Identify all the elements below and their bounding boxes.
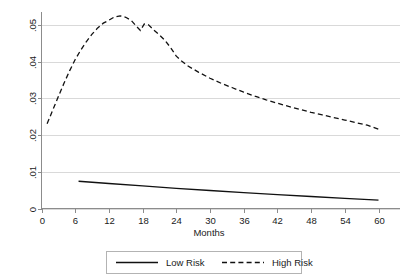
y-tick-label-1: .01 xyxy=(27,166,38,179)
y-tick-label-2: .02 xyxy=(27,129,38,142)
x-tick-label-3: 18 xyxy=(138,215,149,226)
y-tick-label-3: .03 xyxy=(27,92,38,105)
x-tick-label-4: 24 xyxy=(171,215,182,226)
y-tick-label-4: .04 xyxy=(27,56,38,69)
x-tick-label-10: 60 xyxy=(374,215,385,226)
x-tick-label-9: 54 xyxy=(340,215,351,226)
y-tick-label-0: 0 xyxy=(27,207,38,212)
legend-label-high-risk: High Risk xyxy=(272,257,313,268)
y-tick-label-5: .05 xyxy=(27,19,38,32)
legend-label-low-risk: Low Risk xyxy=(166,257,205,268)
x-tick-label-0: 0 xyxy=(40,215,45,226)
chart-figure: 0.01.02.03.04.05 06121824303642485460 Mo… xyxy=(0,0,407,280)
x-tick-label-5: 30 xyxy=(205,215,216,226)
x-tick-label-6: 36 xyxy=(239,215,250,226)
x-tick-label-1: 6 xyxy=(73,215,78,226)
x-tick-label-7: 42 xyxy=(272,215,283,226)
x-tick-label-8: 48 xyxy=(306,215,317,226)
x-tick-label-2: 12 xyxy=(104,215,115,226)
line-chart: 0.01.02.03.04.05 06121824303642485460 Mo… xyxy=(0,0,407,280)
chart-legend[interactable]: Low Risk High Risk xyxy=(107,252,313,274)
chart-background xyxy=(0,0,407,280)
x-axis-title: Months xyxy=(193,227,224,238)
